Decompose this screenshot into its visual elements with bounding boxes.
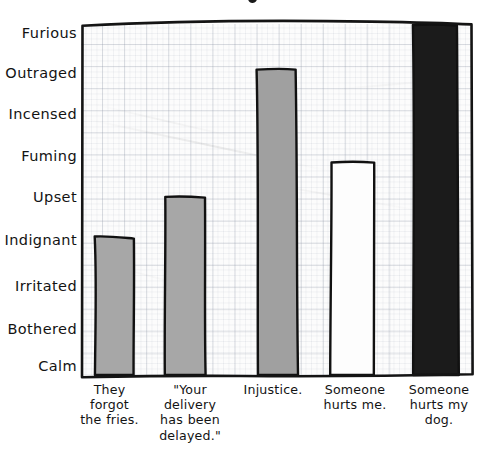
anger-scale-bar-chart: FuriousOutragedIncensedFumingUpsetIndign… xyxy=(0,0,490,452)
x-tick-label-line: hurts my xyxy=(390,397,488,412)
y-tick-label: Incensed xyxy=(9,106,77,122)
x-tick-label-line: They xyxy=(62,382,157,397)
y-tick-label: Furious xyxy=(22,25,77,41)
bar-hurts-me xyxy=(331,162,374,375)
bar-shape xyxy=(161,193,209,379)
x-tick-label-line: the fries. xyxy=(62,412,157,427)
bar-shape xyxy=(410,21,462,379)
bar-fries xyxy=(96,238,134,375)
x-tick-label-line: dog. xyxy=(390,412,488,427)
y-tick-label: Fuming xyxy=(21,148,77,164)
x-tick-label-line: "Your xyxy=(144,382,236,397)
y-tick-label: Bothered xyxy=(7,321,77,337)
y-tick-label: Upset xyxy=(33,189,77,205)
x-tick-label-line: forgot xyxy=(62,397,157,412)
plot-area xyxy=(81,24,472,375)
y-tick-label: Calm xyxy=(38,358,77,374)
bar-injustice xyxy=(258,69,297,375)
cropped-title-mark xyxy=(248,0,258,3)
bar-hurts-dog xyxy=(414,25,458,375)
x-tick-label-line: has been xyxy=(144,412,236,427)
x-tick-label: Theyforgotthe fries. xyxy=(62,382,157,428)
bar-shape xyxy=(92,234,138,379)
bar-shape xyxy=(254,65,301,379)
y-tick-label: Indignant xyxy=(5,232,77,248)
x-tick-label: Someonehurts mydog. xyxy=(390,382,488,428)
bar-shape xyxy=(327,158,378,379)
bar-delivery xyxy=(165,197,205,375)
y-tick-label: Irritated xyxy=(15,278,77,294)
y-tick-label: Outraged xyxy=(5,65,77,81)
x-tick-label-line: delivery xyxy=(144,397,236,412)
x-tick-label-line: Someone xyxy=(390,382,488,397)
x-tick-label: "Yourdeliveryhas beendelayed." xyxy=(144,382,236,443)
x-tick-label-line: delayed." xyxy=(144,428,236,443)
